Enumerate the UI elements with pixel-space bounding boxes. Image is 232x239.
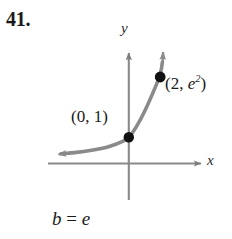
exponential-graph-figure: 41. y x (0, 1) (2, e2) b = e <box>0 0 232 239</box>
y-intercept-label: (0, 1) <box>71 107 108 127</box>
coordinate-plane <box>0 0 232 239</box>
point-y-intercept <box>124 132 134 142</box>
caption-variable: b <box>52 208 62 229</box>
second-point-prefix: (2, <box>165 74 188 93</box>
y-axis-label: y <box>121 20 128 37</box>
x-axis-label: x <box>207 152 214 169</box>
second-point-label: (2, e2) <box>165 74 206 94</box>
base-equation-caption: b = e <box>52 208 90 230</box>
second-point-suffix: ) <box>200 74 206 93</box>
caption-value: e <box>82 208 90 229</box>
caption-operator: = <box>62 208 82 229</box>
point-two-e-squared <box>155 72 166 83</box>
curve-top-arrow <box>163 52 164 64</box>
curve-left-arrow <box>59 153 71 154</box>
